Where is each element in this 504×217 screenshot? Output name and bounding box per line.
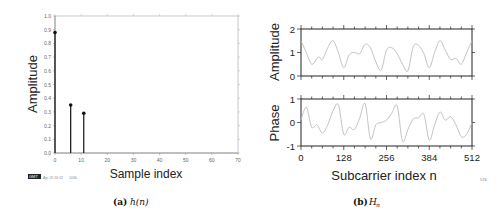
x-tick-label: 128 <box>336 152 352 163</box>
y-tick-label: 0.3 <box>44 109 51 115</box>
x-axis-title: Sample index <box>110 167 183 181</box>
y-tick-label: 2 <box>290 24 295 35</box>
y-tick-label: 0.9 <box>44 27 51 33</box>
y-tick-label: 0.7 <box>44 54 51 60</box>
corner-label: 576 <box>480 177 487 182</box>
stem-series <box>53 31 85 153</box>
y-tick-label: 0.0 <box>44 150 51 156</box>
y-axis-title: Phase <box>267 105 282 142</box>
caption-math: h(n) <box>130 197 149 207</box>
ticks: 012 <box>290 24 475 82</box>
phase-line <box>301 103 472 142</box>
figure: 0.00.10.20.30.40.50.60.70.80.91.0 010203… <box>0 0 504 217</box>
stem-marker <box>53 31 57 35</box>
gmt-extra: 1006 <box>69 176 77 180</box>
x-tick-label: 512 <box>464 152 480 163</box>
subplot-phase: -101 Phase <box>267 94 475 152</box>
x-tick-label: 256 <box>379 152 395 163</box>
y-tick-label: 0.8 <box>44 40 51 46</box>
x-tick-label: 60 <box>209 157 215 163</box>
x-tick-label: 0 <box>54 157 57 163</box>
y-tick-label: 0.1 <box>44 136 51 142</box>
gmt-stamp: GMT Apr 20 20:12 1006 <box>28 174 77 180</box>
plot-frame <box>301 99 472 146</box>
panel-b-line-plots: 012 Amplitude -101 Phase 0128256384512 S… <box>267 23 487 208</box>
x-tick-label: 40 <box>157 157 163 163</box>
y-axis-title: Amplitude <box>25 55 40 113</box>
x-tick-label: 50 <box>183 157 189 163</box>
x-tick-label: 70 <box>235 157 241 163</box>
stem-marker <box>69 103 73 107</box>
caption-b: (b) H n <box>353 197 380 208</box>
panel-a-stem-plot: 0.00.10.20.30.40.50.60.70.80.91.0 010203… <box>25 13 241 207</box>
amplitude-line <box>301 41 472 72</box>
y-tick-label: 0.4 <box>44 95 51 101</box>
caption-subscript: n <box>376 201 380 208</box>
x-ticks: 010203040506070 <box>54 14 241 163</box>
y-tick-label: 0 <box>290 71 295 82</box>
caption-label: (a) <box>113 197 127 207</box>
y-tick-label: 0.2 <box>44 123 51 129</box>
x-tick-label: 0 <box>298 152 303 163</box>
x-axis-title: Subcarrier index n <box>331 168 437 183</box>
caption-a: (a) h(n) <box>113 197 149 207</box>
x-tick-labels: 0128256384512 <box>298 152 480 163</box>
gmt-date: Apr 20 20:12 <box>43 176 63 180</box>
y-tick-label: 0.5 <box>44 82 51 88</box>
x-tick-label: 20 <box>105 157 111 163</box>
y-tick-label: 1 <box>290 47 295 58</box>
x-tick-label: 384 <box>421 152 437 163</box>
y-tick-label: 1.0 <box>44 13 51 19</box>
y-tick-label: 1 <box>290 94 295 105</box>
caption-label: (b) <box>353 197 368 207</box>
gmt-logo-text: GMT <box>29 174 38 179</box>
y-tick-label: 0 <box>290 117 295 128</box>
stem-marker <box>82 111 86 115</box>
plot-frame <box>55 16 238 153</box>
y-axis-title: Amplitude <box>267 23 282 81</box>
x-tick-label: 30 <box>131 157 137 163</box>
y-ticks: 0.00.10.20.30.40.50.60.70.80.91.0 <box>44 13 240 156</box>
x-tick-label: 10 <box>78 157 84 163</box>
subplot-amplitude: 012 Amplitude <box>267 23 475 81</box>
y-tick-label: 0.6 <box>44 68 51 74</box>
y-tick-label: -1 <box>287 141 295 152</box>
